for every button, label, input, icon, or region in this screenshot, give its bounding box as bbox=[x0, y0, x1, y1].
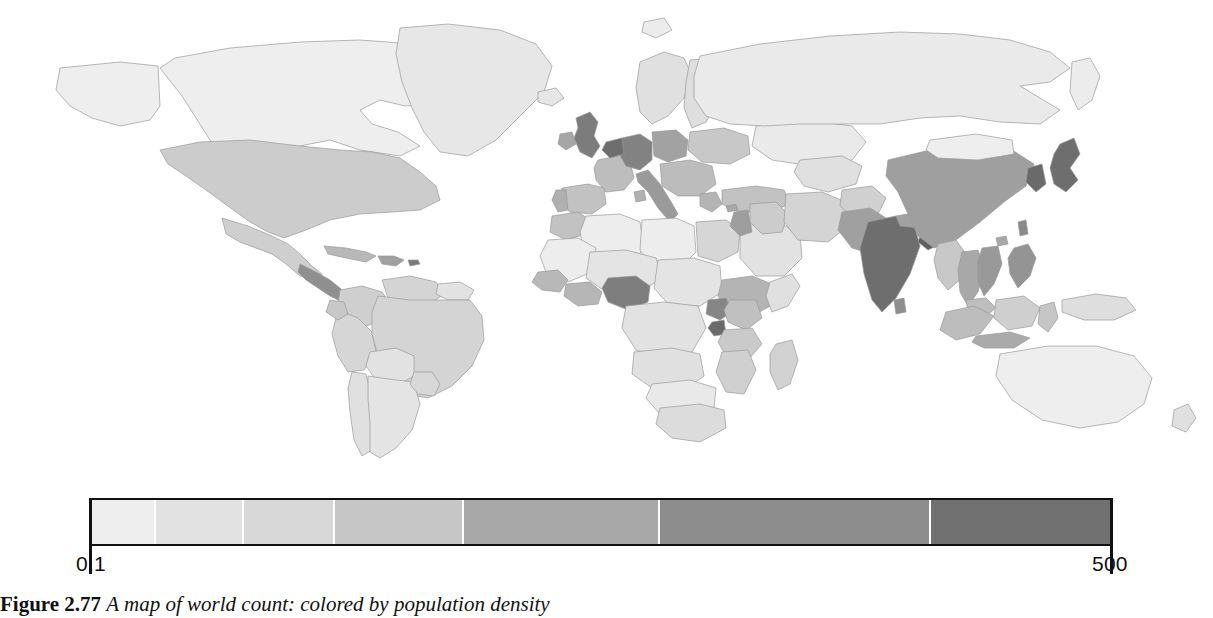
colorbar-segment-2 bbox=[154, 500, 242, 544]
region-kamchatka bbox=[1070, 58, 1100, 110]
region-puerto-rico bbox=[408, 260, 420, 266]
region-new-zealand bbox=[1172, 404, 1196, 432]
region-new-guinea bbox=[1062, 294, 1136, 320]
region-guianas bbox=[436, 282, 474, 300]
region-benelux bbox=[602, 138, 624, 158]
region-portugal bbox=[552, 190, 568, 212]
colorbar-label-max: 500 bbox=[1092, 552, 1128, 576]
colorbar-legend: 0.1 500 bbox=[0, 470, 1213, 580]
region-argentina bbox=[368, 376, 420, 458]
figure-caption-body: A map of world count: colored by populat… bbox=[106, 596, 549, 616]
colorbar-segment-5 bbox=[462, 500, 658, 544]
region-hispaniola bbox=[378, 256, 404, 266]
region-scandinavia bbox=[636, 52, 692, 124]
region-alaska bbox=[56, 62, 160, 126]
region-greece bbox=[700, 192, 722, 212]
region-madagascar bbox=[770, 340, 798, 390]
region-somalia bbox=[766, 274, 800, 312]
region-mozambique bbox=[716, 350, 756, 394]
figure-caption: Figure 2.77 A map of world count: colore… bbox=[0, 596, 1213, 618]
colorbar bbox=[89, 498, 1113, 546]
region-ukraine bbox=[688, 128, 750, 164]
region-ireland bbox=[558, 132, 576, 150]
colorbar-segment-3 bbox=[242, 500, 333, 544]
region-poland bbox=[652, 130, 688, 162]
region-greenland bbox=[396, 24, 552, 156]
region-cuba bbox=[324, 246, 376, 262]
region-svalbard bbox=[642, 18, 672, 38]
figure-page: 0.1 500 Figure 2.77 A map of world count… bbox=[0, 0, 1213, 618]
colorbar-segment-1 bbox=[91, 500, 154, 544]
region-hainan bbox=[996, 236, 1008, 246]
region-balkans bbox=[660, 160, 716, 196]
region-australia bbox=[996, 346, 1152, 428]
region-chad-sudan bbox=[654, 258, 722, 306]
region-sri-lanka bbox=[894, 298, 906, 314]
region-taiwan bbox=[1018, 220, 1028, 236]
colorbar-label-min: 0.1 bbox=[76, 552, 106, 576]
region-united-kingdom bbox=[574, 112, 600, 158]
region-sicily-sardinia bbox=[634, 190, 646, 202]
region-india bbox=[860, 216, 920, 312]
region-korea bbox=[1026, 164, 1046, 192]
region-borneo bbox=[994, 296, 1040, 330]
region-philippines bbox=[1008, 244, 1036, 288]
region-central-asia bbox=[794, 156, 862, 192]
figure-caption-prefix: Figure 2.77 bbox=[0, 596, 106, 616]
colorbar-segment-4 bbox=[333, 500, 463, 544]
region-japan bbox=[1050, 138, 1080, 192]
region-indonesia-java bbox=[972, 332, 1030, 348]
region-kenya bbox=[724, 300, 762, 330]
region-iran bbox=[784, 192, 848, 242]
colorbar-segment-6 bbox=[658, 500, 929, 544]
region-south-africa bbox=[656, 404, 726, 442]
world-map bbox=[0, 0, 1213, 470]
region-mongolia bbox=[926, 134, 1014, 160]
figure-caption-text: Figure 2.77 A map of world count: colore… bbox=[0, 596, 550, 617]
region-vietnam bbox=[978, 246, 1002, 296]
region-sulawesi bbox=[1038, 302, 1058, 332]
world-map-svg bbox=[0, 0, 1213, 470]
colorbar-segment-7 bbox=[929, 500, 1111, 544]
region-russia bbox=[694, 32, 1070, 126]
